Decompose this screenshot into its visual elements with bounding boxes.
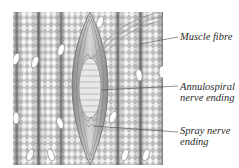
label-muscle-fibre: Muscle fibre bbox=[180, 31, 232, 42]
label-spray-nerve-ending: Spray nerve ending bbox=[180, 125, 230, 147]
label-spray-line1: Spray nerve bbox=[180, 125, 230, 136]
label-annulospiral-line2: nerve ending bbox=[180, 92, 235, 103]
muscle-fibre-field bbox=[11, 10, 169, 168]
label-annulospiral-line1: Annulospiral bbox=[180, 81, 235, 92]
label-spray-line2: ending bbox=[180, 136, 230, 147]
label-annulospiral-nerve-ending: Annulospiral nerve ending bbox=[180, 81, 235, 103]
label-muscle-fibre-line1: Muscle fibre bbox=[180, 31, 232, 42]
